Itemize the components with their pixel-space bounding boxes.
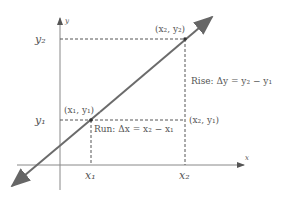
slope-diagram: x y (x₁, y₁) (x₂, y₂) (x₂, y₁) y₂ y₁ x₁ …: [0, 0, 284, 201]
x1-tick-label: x₁: [85, 169, 96, 182]
point-2: [183, 37, 187, 41]
y2-tick-label: y₂: [34, 33, 46, 46]
y-axis-label: y: [64, 17, 70, 25]
point-1-label: (x₁, y₁): [64, 105, 94, 115]
x-axis-label: x: [245, 154, 249, 162]
point-2-label: (x₂, y₂): [155, 24, 185, 34]
y1-tick-label: y₁: [34, 114, 46, 127]
x2-tick-label: x₂: [179, 169, 190, 182]
point-1: [89, 118, 93, 122]
rise-annotation: Rise: Δy = y₂ − y₁: [191, 76, 272, 86]
corner-point-label: (x₂, y₁): [189, 115, 219, 125]
run-annotation: Run: Δx = x₂ − x₁: [94, 124, 174, 134]
